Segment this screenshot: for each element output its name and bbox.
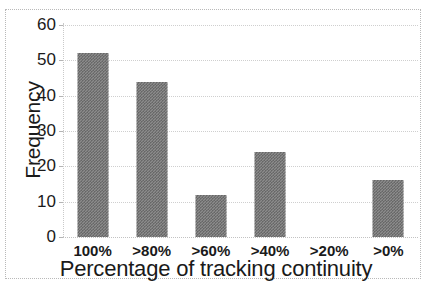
bar bbox=[195, 195, 226, 237]
y-tick-label: 10 bbox=[37, 192, 56, 212]
bar-slot bbox=[241, 25, 300, 237]
y-tick-label: 30 bbox=[37, 121, 56, 141]
bar-series bbox=[63, 25, 418, 237]
bar bbox=[373, 180, 404, 237]
bar-slot bbox=[63, 25, 122, 237]
bar-slot bbox=[359, 25, 418, 237]
bar-chart-figure: Frequency 0102030405060 100%>80%>60%>40%… bbox=[0, 0, 432, 286]
y-tick-label: 0 bbox=[47, 227, 56, 247]
y-tick-mark bbox=[59, 237, 63, 238]
gridline bbox=[63, 237, 418, 238]
bar-slot bbox=[300, 25, 359, 237]
y-tick-label: 20 bbox=[37, 156, 56, 176]
bar bbox=[136, 82, 167, 237]
y-tick-label: 40 bbox=[37, 86, 56, 106]
y-tick-label: 60 bbox=[37, 15, 56, 35]
y-tick-label: 50 bbox=[37, 50, 56, 70]
plot-area: 0102030405060 100%>80%>60%>40%>20%>0% bbox=[63, 25, 418, 237]
bar bbox=[77, 53, 108, 237]
bar bbox=[255, 152, 286, 237]
bar-slot bbox=[122, 25, 181, 237]
bar-slot bbox=[181, 25, 240, 237]
x-axis-title: Percentage of tracking continuity bbox=[0, 256, 432, 282]
